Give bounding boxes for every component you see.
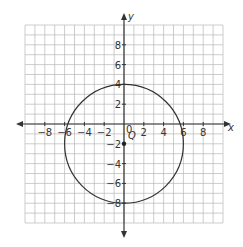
origin-label: 0 — [126, 124, 132, 135]
x-axis-left-arrow-icon — [16, 121, 23, 127]
x-axis-label: x — [227, 122, 234, 133]
coordinate-plane: −8−6−4−224688642−2−4−6−8 Q x y 0 — [0, 0, 243, 247]
x-tick-label: 2 — [141, 127, 147, 138]
y-tick-label: −2 — [106, 139, 121, 150]
y-tick-label: 2 — [115, 99, 121, 110]
x-tick-label: −8 — [37, 127, 52, 138]
y-tick-label: 8 — [115, 40, 121, 51]
y-tick-label: −6 — [106, 178, 121, 189]
y-tick-label: −4 — [106, 159, 121, 170]
y-axis-up-arrow-icon — [121, 13, 127, 20]
y-axis-down-arrow-icon — [121, 231, 127, 238]
point-q — [122, 142, 126, 146]
y-tick-label: −8 — [106, 198, 121, 209]
y-axis-label: y — [127, 11, 135, 22]
x-tick-label: −2 — [97, 127, 112, 138]
x-tick-label: −4 — [77, 127, 92, 138]
y-tick-label: 6 — [115, 60, 121, 71]
x-tick-label: 8 — [200, 127, 206, 138]
x-tick-label: 4 — [160, 127, 166, 138]
axes — [16, 13, 231, 238]
